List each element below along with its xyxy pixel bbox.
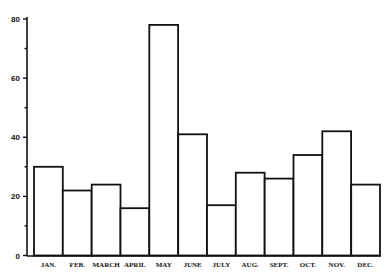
x-tick-label: SEPT. <box>270 261 289 269</box>
x-tick-label: MARCH <box>92 261 120 269</box>
bar-april <box>121 208 150 255</box>
bar-nov <box>322 131 351 255</box>
x-tick-label: DEC. <box>357 261 374 269</box>
bar-feb <box>63 191 92 256</box>
x-tick-label: JUNE <box>183 261 202 269</box>
x-tick-label: MAY <box>156 261 172 269</box>
bars-group <box>34 25 380 256</box>
x-tick-label: APRIL <box>124 261 146 269</box>
y-tick-label: 20 <box>11 192 20 201</box>
bar-jan <box>34 167 63 256</box>
x-tick-label: JULY <box>213 261 231 269</box>
bar-chart: 020406080 JAN.FEB.MARCHAPRILMAYJUNEJULYA… <box>0 0 391 278</box>
bar-aug <box>236 173 265 256</box>
bar-march <box>92 185 121 256</box>
x-tick-label: JAN. <box>41 261 57 269</box>
x-tick-label: AUG. <box>242 261 260 269</box>
bar-sept <box>265 179 294 256</box>
y-tick-label: 80 <box>11 15 20 24</box>
x-tick-label: FEB. <box>70 261 86 269</box>
bar-dec <box>351 185 380 256</box>
y-ticks-group: 020406080 <box>11 15 27 261</box>
bar-may <box>149 25 178 256</box>
y-tick-label: 60 <box>11 74 20 83</box>
bar-june <box>178 134 207 255</box>
x-tick-label: NOV. <box>329 261 346 269</box>
y-tick-label: 0 <box>16 252 21 261</box>
x-tick-label: OCT. <box>300 261 317 269</box>
bar-july <box>207 205 236 255</box>
bar-oct <box>294 155 323 256</box>
x-tick-labels-group: JAN.FEB.MARCHAPRILMAYJUNEJULYAUG.SEPT.OC… <box>41 261 374 269</box>
y-tick-label: 40 <box>11 133 20 142</box>
